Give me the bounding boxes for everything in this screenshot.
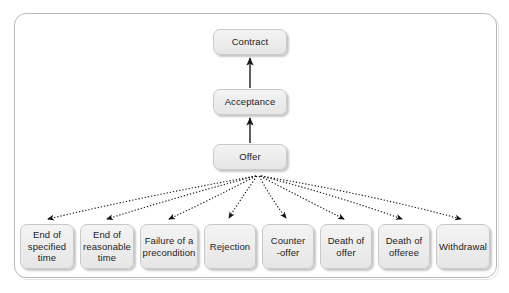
node-counter-offer-label: Counter -offer: [271, 235, 306, 258]
node-death-of-offeree-label: Death of offeree: [386, 235, 423, 258]
node-death-of-offeror[interactable]: Death of offer: [320, 224, 372, 269]
node-death-of-offeree[interactable]: Death of offeree: [378, 224, 430, 269]
node-end-of-specified-time[interactable]: End of specified time: [20, 224, 74, 269]
node-death-of-offeror-label: Death of offer: [328, 235, 365, 258]
node-failure-of-a-precondition[interactable]: Failure of a precondition: [140, 224, 198, 269]
node-withdrawal-label: Withdrawal: [439, 241, 487, 253]
node-end-of-reasonable-time-label: End of reasonable time: [83, 229, 131, 264]
node-acceptance-label: Acceptance: [225, 96, 276, 108]
node-offer-label: Offer: [239, 151, 260, 163]
node-end-of-reasonable-time[interactable]: End of reasonable time: [80, 224, 134, 269]
node-contract-label: Contract: [232, 36, 269, 48]
node-withdrawal[interactable]: Withdrawal: [436, 224, 490, 269]
node-offer[interactable]: Offer: [213, 144, 287, 170]
node-counter-offer[interactable]: Counter -offer: [262, 224, 314, 269]
node-contract[interactable]: Contract: [213, 29, 287, 55]
node-rejection[interactable]: Rejection: [204, 224, 256, 269]
node-rejection-label: Rejection: [210, 241, 251, 253]
diagram-root: Contract Acceptance Offer End of specifi…: [0, 0, 509, 293]
node-end-of-specified-time-label: End of specified time: [28, 229, 66, 264]
node-failure-of-a-precondition-label: Failure of a precondition: [143, 235, 196, 258]
node-acceptance[interactable]: Acceptance: [213, 89, 287, 115]
